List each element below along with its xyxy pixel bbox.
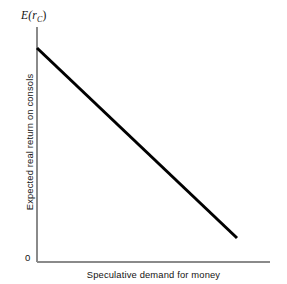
y-axis-symbol-prefix: E( — [21, 9, 32, 21]
speculative-demand-line — [37, 48, 237, 238]
y-axis-title: Expected real return on consols — [24, 42, 35, 242]
figure-container: E(rC) Expected real return on consols Sp… — [0, 0, 287, 284]
y-axis-symbol-label: E(rC) — [21, 9, 47, 24]
x-axis-title: Speculative demand for money — [37, 269, 270, 280]
origin-label: 0 — [25, 253, 30, 263]
chart-plot-area — [0, 0, 287, 284]
y-axis-symbol-suffix: ) — [43, 9, 47, 21]
